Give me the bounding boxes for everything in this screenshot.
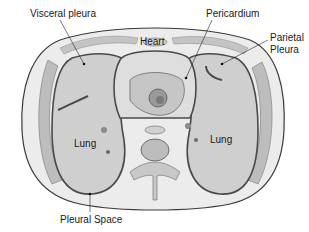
- label-parietal-pleura-line1: Parietal: [270, 32, 304, 43]
- vertebra-body: [141, 139, 169, 161]
- label-lung-right: Lung: [210, 134, 232, 145]
- thorax-diagram: Visceral pleura Pericardium Parietal Ple…: [0, 0, 309, 232]
- label-pericardium: Pericardium: [206, 8, 259, 19]
- label-lung-left: Lung: [74, 138, 96, 149]
- label-parietal-pleura-line2: Pleura: [270, 44, 299, 55]
- label-visceral-pleura: Visceral pleura: [30, 8, 96, 19]
- label-heart: Heart: [140, 36, 164, 47]
- thorax-cross-section-illustration: [0, 0, 309, 232]
- label-pleural-space: Pleural Space: [60, 214, 122, 225]
- esophagus: [145, 126, 165, 134]
